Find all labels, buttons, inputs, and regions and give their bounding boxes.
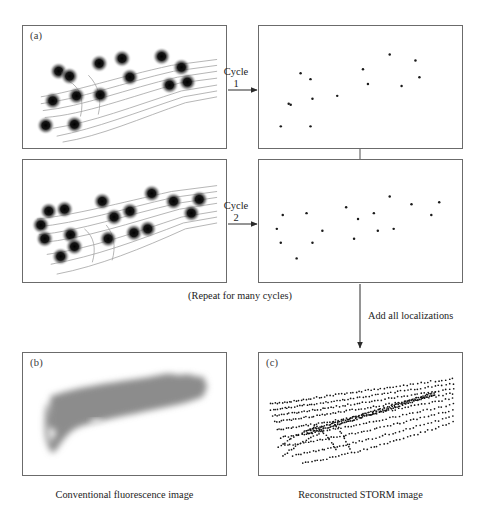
- diffuse-gap: [90, 419, 102, 424]
- cycle-1-number: 1: [219, 78, 253, 90]
- panel-label-b: (b): [30, 357, 43, 368]
- reconstructed-storm-image: [259, 353, 462, 475]
- caption-storm: Reconstructed STORM image: [258, 489, 463, 500]
- cycle-2-number: 2: [219, 212, 253, 224]
- panel-reconstructed-storm: (c): [258, 352, 463, 476]
- figure-root: (a): [0, 0, 483, 513]
- localization-dots: [280, 53, 421, 127]
- panel-label-c: (c): [266, 357, 278, 368]
- panel-conventional-fluorescence: (b): [22, 352, 227, 476]
- conventional-fluorescence-image: [23, 353, 226, 475]
- cycle1-localization-scatter: [259, 26, 462, 148]
- panel-cycle2-raw: [22, 159, 227, 283]
- repeat-cycles-note: (Repeat for many cycles): [125, 290, 355, 301]
- panel-cycle2-localizations: [258, 159, 463, 283]
- add-localizations-note: Add all localizations: [368, 310, 453, 321]
- panel-cycle1-raw: (a): [22, 25, 227, 149]
- diffuse-blob: [45, 374, 207, 453]
- panel-cycle1-localizations: [258, 25, 463, 149]
- storm-dot-cloud: [270, 378, 455, 464]
- cycle2-localization-scatter: [259, 160, 462, 282]
- cycle2-raw-image: [23, 160, 226, 282]
- cycle-1-label: Cycle 1: [219, 66, 253, 90]
- cycle-2-word: Cycle: [219, 200, 253, 212]
- blob-group: [36, 47, 196, 135]
- cycle-2-label: Cycle 2: [219, 200, 253, 224]
- localization-dots: [276, 195, 441, 259]
- caption-conventional: Conventional fluorescence image: [22, 489, 227, 500]
- cycle-1-word: Cycle: [219, 66, 253, 78]
- panel-label-a: (a): [30, 30, 42, 41]
- cycle1-raw-image: [23, 26, 226, 148]
